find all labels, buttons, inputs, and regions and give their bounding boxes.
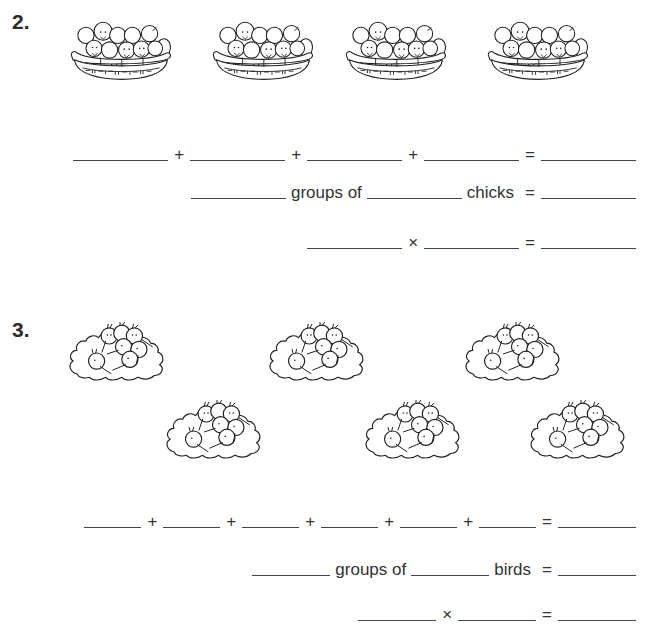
answer-blank[interactable] — [558, 574, 636, 576]
basket-of-chicks-icon — [68, 14, 174, 86]
answer-blank[interactable] — [541, 197, 636, 199]
plus-sign: + — [285, 145, 307, 165]
answer-blank[interactable] — [424, 247, 519, 249]
answer-blank[interactable] — [242, 526, 299, 528]
plus-sign: + — [299, 512, 321, 532]
answer-blank[interactable] — [191, 197, 286, 199]
basket-of-chicks-icon — [343, 14, 449, 86]
groups-of-label: groups of — [330, 560, 411, 580]
answer-blank[interactable] — [541, 159, 636, 161]
addition-sentence: +++= — [73, 145, 636, 165]
equals-sign: = — [519, 145, 541, 165]
equals-sign: = — [519, 233, 541, 253]
answer-blank[interactable] — [307, 247, 402, 249]
answer-blank[interactable] — [84, 526, 141, 528]
nest-of-kiwi-birds-icon — [527, 398, 635, 464]
answer-blank[interactable] — [541, 247, 636, 249]
equals-sign: = — [536, 560, 558, 580]
nest-of-kiwi-birds-icon — [362, 398, 470, 464]
multiplication-sentence: × = — [358, 605, 636, 625]
answer-blank[interactable] — [411, 574, 489, 576]
answer-blank[interactable] — [424, 159, 519, 161]
equals-sign: = — [536, 512, 558, 532]
addition-sentence: +++++= — [84, 512, 636, 532]
unit-label: chicks — [462, 183, 519, 203]
answer-blank[interactable] — [73, 159, 168, 161]
answer-blank[interactable] — [321, 526, 378, 528]
plus-sign: + — [168, 145, 190, 165]
answer-blank[interactable] — [558, 619, 636, 621]
nest-of-kiwi-birds-icon — [462, 320, 570, 386]
groups-sentence: groups of chicks = — [191, 183, 636, 203]
plus-sign: + — [457, 512, 479, 532]
nest-of-kiwi-birds-icon — [163, 398, 271, 464]
plus-sign: + — [141, 512, 163, 532]
nest-of-kiwi-birds-icon — [266, 320, 374, 386]
plus-sign: + — [220, 512, 242, 532]
basket-of-chicks-icon — [210, 14, 316, 86]
answer-blank[interactable] — [367, 197, 462, 199]
equals-sign: = — [536, 605, 558, 625]
plus-sign: + — [378, 512, 400, 532]
answer-blank[interactable] — [190, 159, 285, 161]
groups-sentence: groups of birds = — [252, 560, 636, 580]
unit-label: birds — [489, 560, 536, 580]
answer-blank[interactable] — [558, 526, 636, 528]
answer-blank[interactable] — [307, 159, 402, 161]
answer-blank[interactable] — [400, 526, 457, 528]
multiplication-sentence: × = — [307, 233, 636, 253]
problem-number: 2. — [12, 10, 30, 34]
answer-blank[interactable] — [358, 619, 436, 621]
plus-sign: + — [402, 145, 424, 165]
nest-of-kiwi-birds-icon — [66, 320, 174, 386]
answer-blank[interactable] — [479, 526, 536, 528]
basket-of-chicks-icon — [485, 14, 591, 86]
times-sign: × — [402, 233, 424, 253]
times-sign: × — [436, 605, 458, 625]
answer-blank[interactable] — [458, 619, 536, 621]
problem-number: 3. — [12, 318, 30, 342]
answer-blank[interactable] — [163, 526, 220, 528]
groups-of-label: groups of — [286, 183, 367, 203]
equals-sign: = — [519, 183, 541, 203]
answer-blank[interactable] — [252, 574, 330, 576]
